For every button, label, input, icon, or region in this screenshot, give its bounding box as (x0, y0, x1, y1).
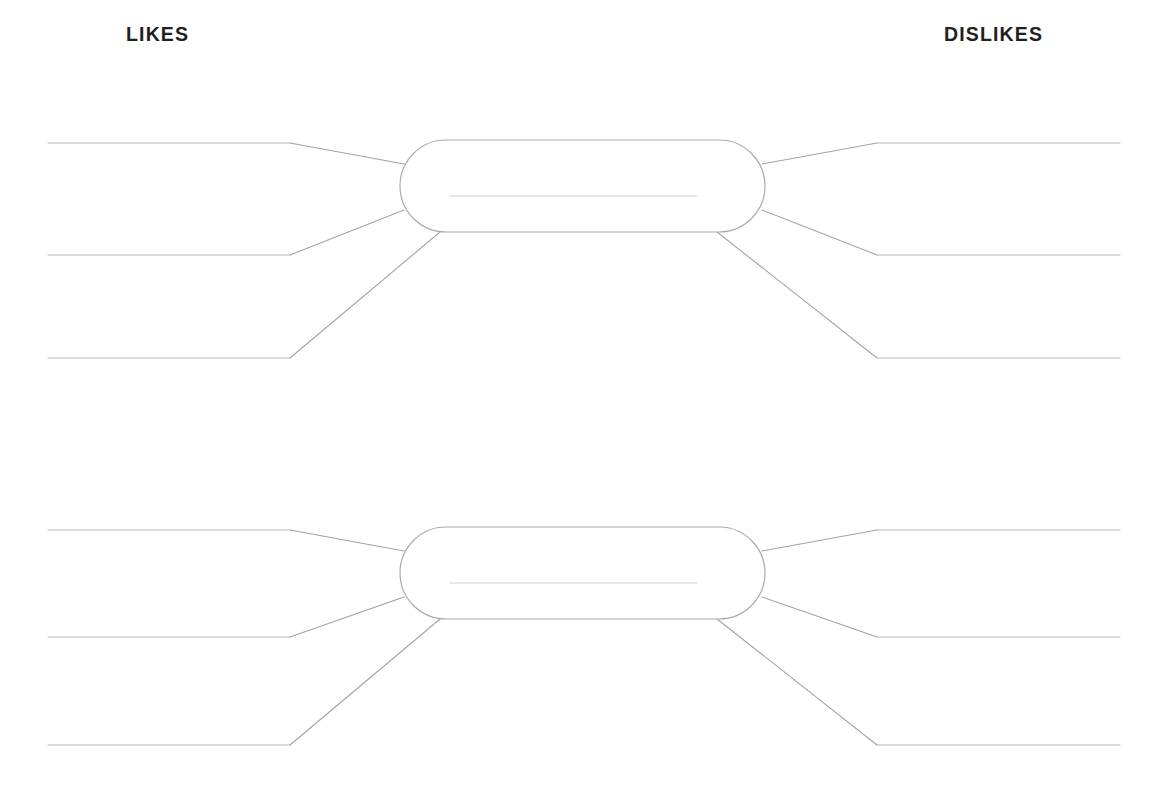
center-topic-shape[interactable] (400, 140, 765, 232)
dislikes-connector-1 (762, 530, 877, 551)
dislikes-connector-1 (762, 143, 877, 164)
worksheet-page: LIKES DISLIKES (0, 0, 1173, 791)
organizer-1-likes-group (48, 143, 440, 358)
likes-connector-3 (290, 232, 440, 358)
dislikes-connector-2 (762, 210, 877, 255)
likes-connector-1 (290, 143, 404, 164)
column-header-likes: LIKES (126, 25, 189, 45)
organizer-2-likes-group (48, 530, 440, 745)
dislikes-connector-3 (717, 619, 877, 745)
likes-connector-2 (290, 210, 404, 255)
likes-connector-1 (290, 530, 404, 551)
dislikes-connector-2 (762, 597, 877, 637)
center-topic-shape[interactable] (400, 527, 765, 619)
diagram-layer (0, 0, 1173, 791)
organizer-2-dislikes-group (717, 530, 1120, 745)
likes-connector-2 (290, 597, 404, 637)
organizers-svg (0, 0, 1173, 791)
organizer-2 (48, 527, 1120, 745)
column-header-dislikes: DISLIKES (944, 25, 1043, 45)
organizer-1-dislikes-group (717, 143, 1120, 358)
organizer-1 (48, 140, 1120, 358)
dislikes-connector-3 (717, 232, 877, 358)
likes-connector-3 (290, 619, 440, 745)
